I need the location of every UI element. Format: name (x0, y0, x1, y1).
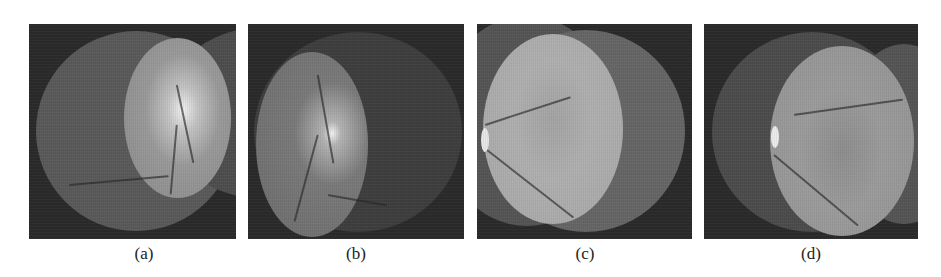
optic-disc-glare (771, 126, 779, 148)
panel-label-b: (b) (326, 244, 386, 264)
panel-label-c: (c) (555, 244, 615, 264)
optic-disc-glare (481, 128, 489, 152)
fundus-disc-bright (770, 46, 914, 236)
fundus-disc-bright (483, 34, 623, 224)
fundus-panel-d (704, 24, 918, 239)
fundus-panel-c (477, 24, 692, 239)
fundus-disc-bright (256, 52, 368, 237)
fundus-panel-b (248, 24, 464, 239)
panel-label-a: (a) (114, 244, 174, 264)
fundus-panel-a (29, 24, 236, 239)
fundus-disc-bright (124, 38, 231, 198)
panel-label-d: (d) (781, 244, 841, 264)
